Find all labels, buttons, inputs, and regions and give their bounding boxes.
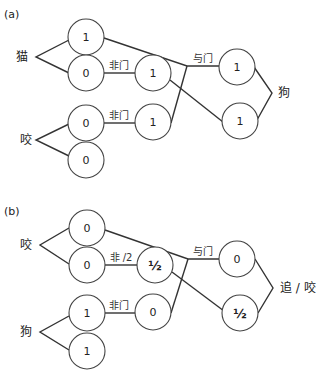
input-word: 猫	[16, 50, 28, 64]
panel-b: (b) 非 /2 非门 与门 0 0 1 1 ½ 0 0 ½ 咬 狗	[4, 205, 316, 369]
node-value: 1	[150, 67, 157, 80]
input-word: 咬	[20, 237, 32, 252]
edge-dog-fork	[40, 316, 69, 350]
node-value: 1	[84, 307, 91, 320]
not-gate-label: 非门	[109, 59, 129, 71]
not-gate-label: 非 /2	[110, 252, 133, 263]
node-value: 0	[83, 117, 90, 130]
and-gate-label: 与门	[193, 245, 213, 257]
output-word: 狗	[278, 86, 290, 100]
edge-output-join	[255, 259, 273, 313]
logic-network-diagram: (a) 非门 非门 与门 1 0 0 0 1 1 1 1	[0, 0, 320, 388]
panel-b-label: (b)	[4, 205, 20, 218]
node-value: 1	[237, 115, 244, 128]
node-value: ½	[148, 258, 161, 273]
edge-bite-fork	[36, 124, 69, 156]
edge-bite-fork	[40, 228, 69, 264]
edge-dog-join	[254, 67, 272, 120]
edge-cross-a	[170, 80, 223, 122]
node-value: 0	[84, 222, 91, 235]
edge-cat-fork	[36, 40, 69, 73]
node-value: 0	[83, 154, 90, 167]
not-gate-label: 非门	[109, 109, 129, 121]
node-value: ½	[233, 306, 246, 321]
edge-and-b-bottom	[171, 259, 188, 313]
input-word: 狗	[20, 325, 32, 339]
and-gate-label: 与门	[193, 52, 213, 64]
input-word: 咬	[20, 132, 32, 147]
edge-and-a-bottom	[171, 66, 187, 123]
node-value: 0	[83, 67, 90, 80]
not-gate-label: 非门	[109, 299, 129, 311]
output-word: 追 / 咬	[280, 280, 316, 295]
edge-cross-b	[172, 272, 224, 311]
panel-a-label: (a)	[4, 8, 19, 21]
node-value: 1	[234, 61, 241, 74]
panel-a: (a) 非门 非门 与门 1 0 0 0 1 1 1 1	[4, 8, 290, 178]
node-value: 1	[84, 345, 91, 358]
node-value: 0	[84, 259, 91, 272]
node-value: 1	[150, 116, 157, 129]
node-value: 1	[83, 31, 90, 44]
node-value: 0	[150, 306, 157, 319]
node-value: 0	[234, 253, 241, 266]
